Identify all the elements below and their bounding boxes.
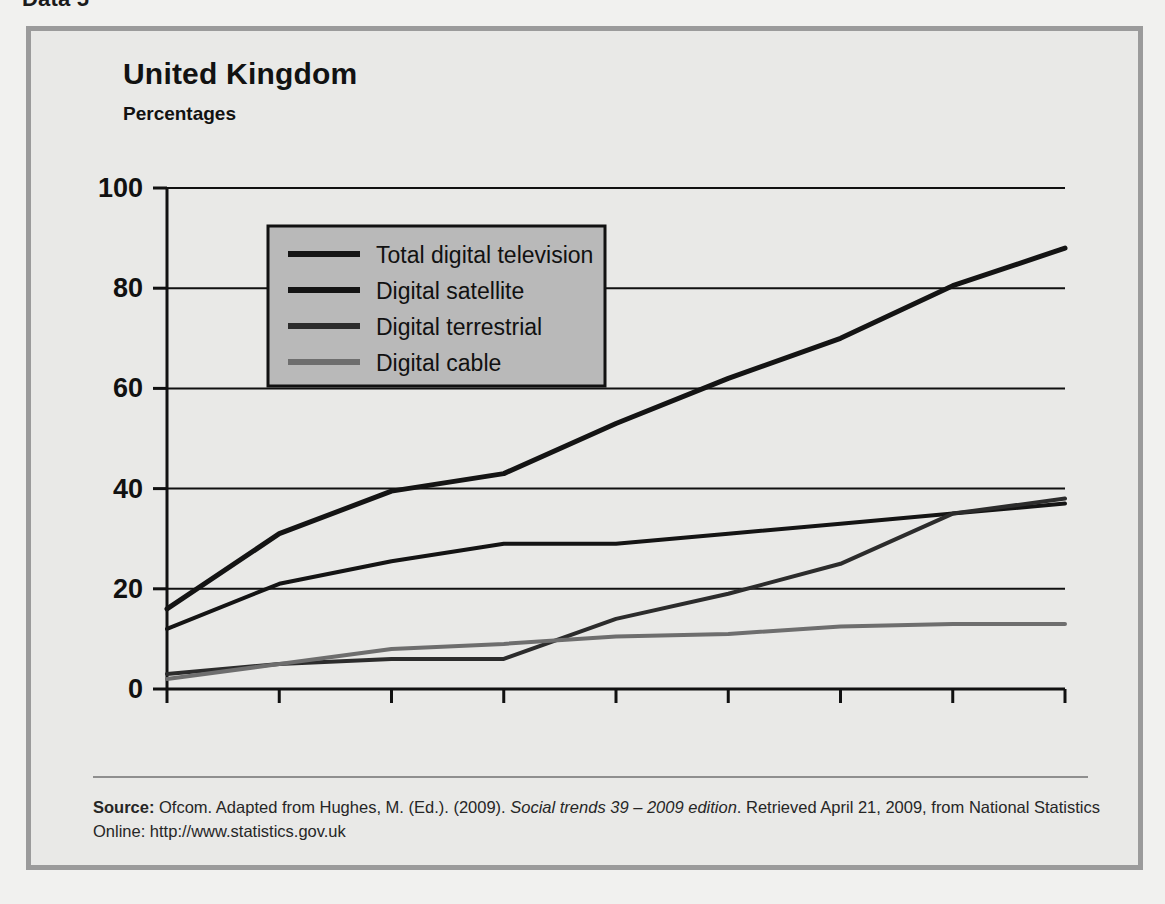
page-caption: Data 5 bbox=[22, 0, 89, 8]
source-note: Source: Ofcom. Adapted from Hughes, M. (… bbox=[93, 796, 1103, 844]
x-tick-label: 2005 bbox=[698, 713, 758, 716]
series-line bbox=[167, 624, 1065, 679]
y-tick-label: 0 bbox=[128, 674, 143, 704]
chart-title: United Kingdom bbox=[123, 57, 357, 91]
y-tick-label: 60 bbox=[113, 373, 143, 403]
legend-label: Digital satellite bbox=[376, 278, 524, 304]
x-axis-ticks bbox=[167, 689, 1065, 703]
line-chart-svg: 020406080100 200020012002200320042005200… bbox=[31, 136, 1138, 716]
source-divider bbox=[93, 776, 1088, 778]
plot-area: 020406080100 200020012002200320042005200… bbox=[31, 136, 1138, 716]
legend-label: Total digital television bbox=[376, 242, 593, 268]
y-tick-label: 80 bbox=[113, 273, 143, 303]
y-tick-label: 20 bbox=[113, 574, 143, 604]
chart-header: United Kingdom Percentages bbox=[123, 57, 357, 125]
x-tick-label: 2003 bbox=[474, 713, 534, 716]
x-tick-label: 2008 bbox=[1035, 713, 1095, 716]
source-label: Source: bbox=[93, 798, 154, 816]
chart-legend: Total digital televisionDigital satellit… bbox=[268, 226, 605, 386]
y-tick-label: 100 bbox=[98, 173, 143, 203]
x-tick-label: 2002 bbox=[361, 713, 421, 716]
x-tick-label: 2000 bbox=[137, 713, 197, 716]
legend-label: Digital terrestrial bbox=[376, 314, 542, 340]
x-tick-label: 2004 bbox=[586, 713, 646, 716]
legend-label: Digital cable bbox=[376, 350, 501, 376]
y-tick-label: 40 bbox=[113, 474, 143, 504]
y-axis-tick-labels: 020406080100 bbox=[98, 173, 143, 704]
x-tick-label: 2007 bbox=[923, 713, 983, 716]
x-tick-label: 2001 bbox=[249, 713, 309, 716]
y-axis-ticks bbox=[153, 188, 167, 689]
source-text-pre: Ofcom. Adapted from Hughes, M. (Ed.). (2… bbox=[154, 798, 510, 816]
figure-container: United Kingdom Percentages 020406080100 … bbox=[26, 26, 1143, 870]
source-publication-title: Social trends 39 – 2009 edition bbox=[510, 798, 737, 816]
x-axis-tick-labels: 200020012002200320042005200620072008 bbox=[137, 713, 1095, 716]
x-tick-label: 2006 bbox=[810, 713, 870, 716]
chart-subtitle: Percentages bbox=[123, 103, 357, 125]
